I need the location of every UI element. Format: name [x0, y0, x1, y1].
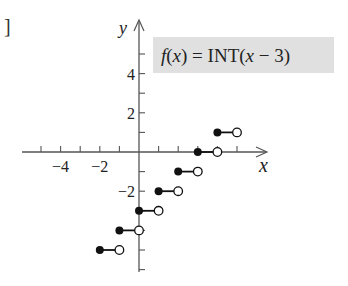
closed-endpoint-icon: [213, 128, 221, 136]
x-axis-label: x: [258, 154, 268, 176]
tick-labels: −4−242−2: [52, 66, 135, 201]
step-segment: [213, 128, 241, 137]
step-segment: [194, 148, 222, 157]
closed-endpoint-icon: [115, 226, 123, 234]
y-axis-label: y: [117, 18, 127, 38]
open-endpoint-icon: [115, 246, 124, 255]
y-tick-label: 4: [127, 66, 135, 83]
x-tick-label: −4: [52, 158, 69, 175]
step-segment: [115, 226, 143, 235]
closed-endpoint-icon: [194, 148, 202, 156]
closed-endpoint-icon: [96, 246, 104, 254]
open-endpoint-icon: [135, 226, 144, 235]
step-segment: [174, 167, 202, 176]
closed-endpoint-icon: [174, 168, 182, 176]
y-tick-label: 2: [127, 105, 135, 122]
function-label: f(x) = INT(x − 3): [161, 45, 290, 67]
step-segment: [135, 207, 163, 216]
function-label-box: f(x) = INT(x − 3): [153, 37, 334, 73]
closed-endpoint-icon: [155, 187, 163, 195]
open-endpoint-icon: [233, 128, 242, 137]
open-endpoint-icon: [213, 148, 222, 157]
closed-endpoint-icon: [135, 207, 143, 215]
open-endpoint-icon: [154, 207, 163, 216]
y-tick-label: −2: [118, 183, 135, 200]
step-segment: [155, 187, 183, 196]
open-endpoint-icon: [174, 187, 183, 196]
open-endpoint-icon: [194, 167, 203, 176]
x-tick-label: −2: [91, 158, 108, 175]
step-segment: [96, 246, 124, 255]
step-function-plot: xy −4−242−2 f(x) = INT(x − 3): [0, 0, 348, 286]
